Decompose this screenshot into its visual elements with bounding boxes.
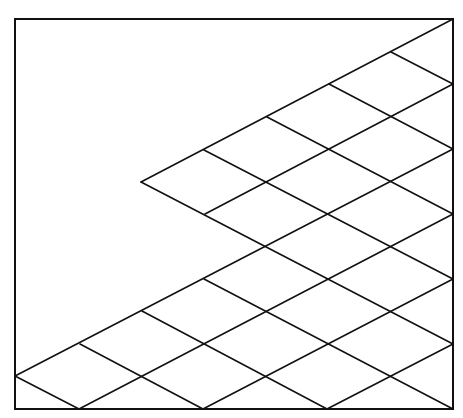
lattice-line-up-0 [141,19,453,182]
lattice-line-down-8 [204,150,453,279]
lattice-line-up-4 [15,149,453,376]
lattice-line-down-2 [391,52,453,84]
lattice-line-down-18 [15,376,79,409]
lattice-line-down-14 [142,311,327,409]
lattice-lines [15,19,453,409]
lattice-line-down-6 [267,117,453,214]
diagram-canvas [0,0,463,418]
diagram-frame [15,19,453,409]
lattice-line-down-10 [141,182,453,344]
rhombus-lattice-diagram [0,0,463,418]
